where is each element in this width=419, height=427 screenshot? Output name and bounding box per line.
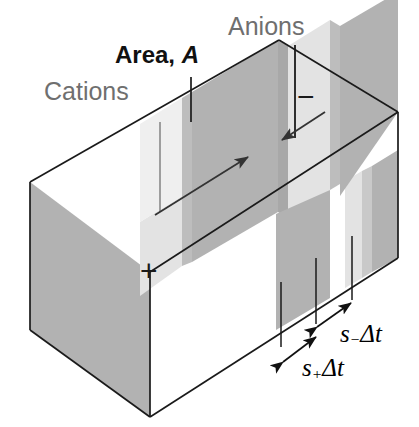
positive-electrode-sign: + <box>140 256 158 286</box>
cation-distance-label: s+Δt <box>302 355 344 382</box>
anion-distance-suffix: Δt <box>360 320 382 347</box>
cation-distance-subscript: + <box>312 365 322 382</box>
anion-distance-symbol: s <box>340 320 350 347</box>
area-label: Area, A <box>115 43 199 67</box>
cations-label: Cations <box>44 79 129 104</box>
area-symbol: A <box>182 41 199 68</box>
figure-canvas: Cations Anions Area, A + − s−Δt s+Δt <box>0 0 419 427</box>
anion-distance-subscript: − <box>350 331 360 348</box>
anions-label: Anions <box>228 14 304 39</box>
cation-front-plate <box>278 40 288 218</box>
negative-electrode-sign: − <box>297 82 315 112</box>
area-label-text: Area, <box>115 41 182 68</box>
ion-migration-diagram <box>0 0 419 427</box>
anion-distance-label: s−Δt <box>340 321 382 348</box>
cation-distance-suffix: Δt <box>322 354 344 381</box>
cation-distance-symbol: s <box>302 354 312 381</box>
